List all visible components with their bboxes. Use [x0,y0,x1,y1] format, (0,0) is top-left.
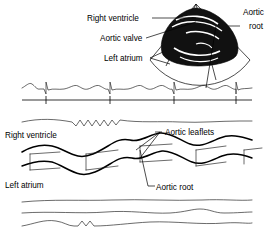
mmode-bottom-line-3 [22,221,252,226]
leader-left-atrium [150,52,163,58]
ecg-strip-group [22,82,252,104]
label-aortic-root-line2: root [249,22,264,31]
label-aortic-leaflets: Aortic leaflets [165,128,214,137]
label-right-ventricle-mmode: Right ventricle [5,131,57,140]
label-aortic-valve-2d: Aortic valve [100,34,143,43]
aortic-leaflet-box-2 [86,150,118,170]
label-aortic-root-mmode: Aortic root [156,183,194,192]
label-left-atrium-2d: Left atrium [104,54,143,63]
label-aortic-root-line1: Aortic [243,8,264,17]
mmode-la-wall-lower [22,151,252,174]
echo-sector-group [146,4,250,88]
figure-canvas: Right ventricle Aortic valve Left atrium… [0,0,275,238]
mmode-bottom-line-2 [22,209,252,213]
mmode-bottom-line-1 [22,200,252,202]
m-mode-labels: Right ventricle Left atrium Aortic leafl… [5,128,214,192]
m-mode-group [22,119,262,226]
ecg-waveform [22,82,252,94]
label-left-atrium-mmode: Left atrium [5,181,44,190]
label-right-ventricle-2d: Right ventricle [87,14,139,23]
mmode-chest-wall-line [22,119,252,126]
echocardiogram-figure: Right ventricle Aortic valve Left atrium… [0,0,275,238]
